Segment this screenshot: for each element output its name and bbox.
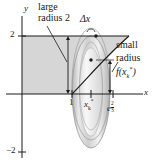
large-radius-label-line1: large [38, 2, 58, 12]
fx-subscript: k [127, 72, 130, 79]
fx-close: ) [132, 66, 135, 77]
small-radius-label-line2: radius [116, 53, 140, 63]
y-axis-label: y [24, 4, 28, 13]
y-tick-label-2: 2 [10, 30, 15, 39]
xk-subscript: k [88, 105, 91, 111]
y-tick-label-neg2: −2 [6, 146, 16, 155]
exponent-fraction: 23 [111, 101, 114, 113]
xk-star: * [91, 98, 94, 104]
exponent-denominator: 3 [111, 107, 114, 114]
x-tick-label-1: 1 [69, 98, 74, 107]
small-radius-label-function: f(xk*) [116, 66, 136, 80]
washer-method-figure [0, 0, 161, 167]
large-radius-label-line2: radius 2 [38, 13, 70, 23]
x-tick-label-xk-star: xk* [84, 99, 94, 111]
exponent-numerator: 2 [111, 101, 114, 107]
x-axis-label: x [144, 88, 148, 97]
delta-x-brace [87, 29, 95, 32]
small-radius-label-line1: small [116, 40, 138, 50]
delta-x-label: Δx [80, 14, 90, 24]
x-tick-label-e-exponent: e23 [107, 101, 114, 113]
